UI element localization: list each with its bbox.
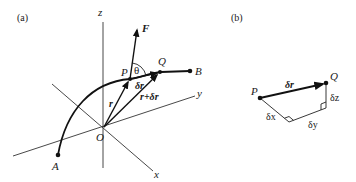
panel-b-tag: (b): [231, 12, 243, 24]
component-dy-label: δy: [308, 119, 318, 130]
displacement-vector-label: δr: [285, 79, 294, 90]
angle-theta-label: θ: [134, 64, 139, 76]
position-vector-label: r: [109, 98, 113, 109]
point-a-label: A: [51, 160, 59, 172]
trajectory-curve: [58, 71, 190, 155]
y-axis-label: y: [196, 87, 202, 99]
force-vector-label: F: [141, 22, 150, 34]
displacement-vector-label: δr: [135, 80, 144, 91]
point-q-label: Q: [158, 55, 166, 67]
panel-a: (a) z y x A B O r r+δr δr P Q F: [13, 6, 202, 180]
point-p-label: P: [120, 66, 128, 78]
panel-b: (b) δr P Q δx δy δz: [231, 12, 340, 130]
z-axis-label: z: [97, 6, 103, 18]
work-diagram: (a) z y x A B O r r+δr δr P Q F: [0, 0, 356, 182]
point-p-dot: [258, 96, 263, 101]
origin-label: O: [96, 131, 104, 143]
point-q-dot: [324, 81, 329, 86]
position-vector-r: [104, 82, 128, 127]
panel-a-tag: (a): [17, 12, 28, 24]
point-b-dot: [188, 69, 193, 74]
point-p-label: P: [250, 85, 258, 97]
point-q-dot: [158, 70, 162, 74]
component-dz-label: δz: [330, 92, 340, 103]
point-a-dot: [56, 153, 61, 158]
component-dx-label: δx: [266, 111, 276, 122]
point-b-label: B: [195, 65, 202, 77]
x-axis: [52, 84, 153, 171]
position-plus-displacement-label: r+δr: [140, 91, 159, 102]
point-q-label: Q: [330, 70, 338, 82]
x-axis-label: x: [153, 168, 159, 180]
